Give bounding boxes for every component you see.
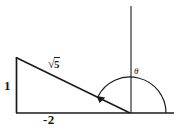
vertical-leg-label: 1 xyxy=(4,79,11,92)
figure-canvas xyxy=(0,0,180,133)
angle-label: θ xyxy=(134,67,138,76)
triangle-hypotenuse xyxy=(16,58,130,114)
hypotenuse-label: √5 xyxy=(48,58,60,70)
angle-arc xyxy=(98,77,166,113)
radicand: 5 xyxy=(54,57,61,70)
horizontal-leg-label: -2 xyxy=(43,113,55,126)
geometry-figure: 1 -2 √5 θ xyxy=(0,0,180,133)
